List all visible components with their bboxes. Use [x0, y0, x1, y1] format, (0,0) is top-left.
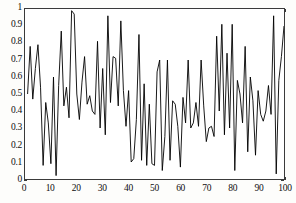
y-tick-mark — [24, 180, 27, 181]
series-polyline — [28, 11, 284, 176]
chart-container: 00.10.20.30.40.50.60.70.80.91 0102030405… — [0, 0, 296, 203]
x-tick-mark — [285, 177, 286, 180]
plot-area — [24, 8, 285, 180]
y-tick-mark-right — [281, 180, 284, 181]
x-tick-mark-top — [285, 9, 286, 12]
data-series-line — [25, 9, 284, 179]
